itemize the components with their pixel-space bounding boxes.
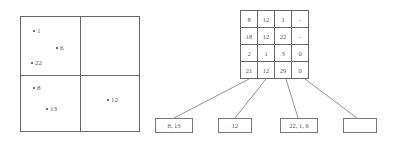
leaf-box-1: 8, 13 xyxy=(155,118,193,133)
link-2 xyxy=(235,79,266,118)
table-cell: 0 xyxy=(292,45,309,62)
table-cell: 12 xyxy=(258,28,275,45)
table-row: 8 12 1 - xyxy=(241,11,309,28)
table-cell: 29 xyxy=(275,62,292,79)
leaf-box-2: 12 xyxy=(218,118,252,133)
table-cell: 1 xyxy=(258,45,275,62)
link-3 xyxy=(286,79,298,118)
leaf-box-3: 22, 1, 6 xyxy=(280,118,318,133)
table-cell: 2 xyxy=(241,45,258,62)
table-cell: 12 xyxy=(258,11,275,28)
tree-links xyxy=(0,0,397,142)
table-row: 21 12 29 0 xyxy=(241,62,309,79)
table-cell: 18 xyxy=(241,28,258,45)
link-4 xyxy=(305,79,357,118)
table-cell: 12 xyxy=(258,62,275,79)
table-cell: 0 xyxy=(292,62,309,79)
table-cell: 1 xyxy=(275,11,292,28)
table-cell: - xyxy=(292,11,309,28)
table-cell: 8 xyxy=(241,11,258,28)
table-cell: 3 xyxy=(275,45,292,62)
table-cell: 21 xyxy=(241,62,258,79)
table-cell: 22 xyxy=(275,28,292,45)
grid-table: 8 12 1 - 18 12 22 - 2 1 3 0 21 12 29 0 xyxy=(240,10,309,79)
table-cell: - xyxy=(292,28,309,45)
leaf-box-4 xyxy=(343,118,377,133)
link-1 xyxy=(174,79,249,118)
table-row: 18 12 22 - xyxy=(241,28,309,45)
table-row: 2 1 3 0 xyxy=(241,45,309,62)
